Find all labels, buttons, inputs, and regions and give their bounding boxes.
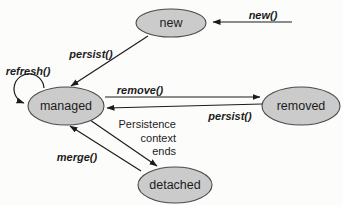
state-diagram-canvas: new managed removed detached new() persi… [0,0,343,205]
state-new-label: new [160,16,184,30]
state-detached-label: detached [149,178,200,192]
transition-remove-label: remove() [117,84,164,96]
transition-persist-removed-arrow [107,104,262,108]
transition-merge-label: merge() [57,151,98,163]
transition-merge-arrow [70,126,141,171]
state-removed-label: removed [277,99,326,113]
transition-new-call-label: new() [249,9,278,21]
transition-context-ends-label-line1: Persistence [119,118,176,130]
transition-persist-removed-label: persist() [207,110,252,122]
transition-refresh-label: refresh() [6,65,51,77]
state-diagram: new managed removed detached new() persi… [0,0,343,205]
transition-persist-new-label: persist() [68,48,113,60]
transition-persist-new-arrow [71,36,148,86]
state-managed-label: managed [40,99,92,113]
transition-context-ends-label-line3: ends [152,145,176,157]
transition-context-ends-label-line2: context [141,132,176,144]
